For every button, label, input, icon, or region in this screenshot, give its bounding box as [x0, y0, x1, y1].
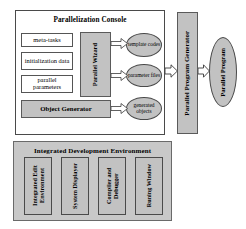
parallel-parameters-label: parallel parameters	[23, 77, 71, 90]
wizard-to-template-codes-arrow	[111, 38, 128, 49]
system-displayer-box: System Displayer	[61, 157, 89, 215]
meta-tasks-box: meta-tasks	[21, 33, 73, 47]
parameter-files-ellipse: parameter files	[126, 64, 162, 87]
object-generator-to-generated-objects-arrow	[111, 103, 128, 114]
initialization-data-label: initialization data	[25, 58, 70, 65]
running-window-label: Runing Window	[146, 164, 153, 207]
architecture-diagram: Parallelization Console meta-tasks initi…	[0, 0, 246, 229]
compiler-and-debugger-box: Compiler and Debugger	[98, 157, 126, 215]
parallel-program-generator-label: Parallel Program Generator	[184, 31, 191, 116]
generated-objects-label: generated objects	[127, 103, 161, 115]
parallel-program-ellipse: Parallel Program	[209, 37, 237, 107]
ide-title: Integrated Development Environment	[14, 148, 171, 155]
compiler-and-debugger-label: Compiler and Debugger	[106, 158, 119, 214]
integrated-edit-environment-label: Integrated Edit Environment	[32, 158, 45, 214]
parallel-program-label: Parallel Program	[220, 48, 227, 97]
parameter-files-label: parameter files	[128, 73, 160, 79]
parallel-program-generator-box: Parallel Program Generator	[177, 12, 198, 134]
meta-tasks-label: meta-tasks	[33, 37, 60, 44]
generated-objects-ellipse: generated objects	[126, 97, 162, 120]
parallel-parameters-box: parallel parameters	[21, 75, 73, 93]
template-codes-ellipse: template codes	[126, 33, 162, 57]
integrated-edit-environment-box: Integrated Edit Environment	[24, 157, 52, 215]
console-to-generator-arrow	[165, 64, 178, 78]
parallel-wizard-box: Parallel Wizard	[80, 32, 111, 97]
wizard-to-parameter-files-arrow	[111, 70, 128, 81]
object-generator-box: Object Generator	[21, 100, 111, 118]
running-window-box: Runing Window	[135, 157, 163, 215]
parallelization-console-title: Parallelization Console	[16, 17, 164, 25]
object-generator-label: Object Generator	[40, 105, 92, 112]
template-codes-label: template codes	[128, 42, 160, 48]
initialization-data-box: initialization data	[21, 52, 73, 70]
generator-to-parallel-program-arrow	[198, 64, 210, 78]
parallel-wizard-label: Parallel Wizard	[92, 43, 99, 86]
system-displayer-label: System Displayer	[72, 163, 79, 209]
